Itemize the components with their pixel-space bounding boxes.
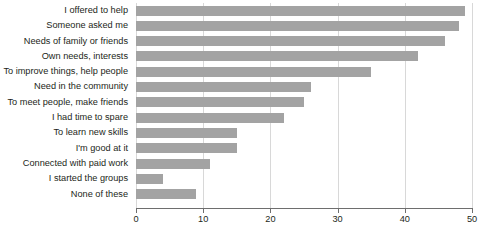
category-label: I had time to spare bbox=[0, 110, 132, 125]
bar bbox=[136, 128, 237, 138]
bar-row bbox=[136, 171, 472, 186]
plot-area bbox=[136, 3, 472, 208]
category-label: Own needs, interests bbox=[0, 49, 132, 64]
gridline bbox=[472, 3, 473, 208]
bar-row bbox=[136, 18, 472, 33]
tick-label: 20 bbox=[265, 214, 275, 224]
category-label: Connected with paid work bbox=[0, 156, 132, 171]
tick-mark bbox=[136, 209, 137, 213]
tick-mark bbox=[338, 209, 339, 213]
tick-label: 50 bbox=[467, 214, 477, 224]
bar-row bbox=[136, 125, 472, 140]
bar bbox=[136, 174, 163, 184]
bar-row bbox=[136, 95, 472, 110]
bar-row bbox=[136, 49, 472, 64]
category-label: To learn new skills bbox=[0, 125, 132, 140]
bar-row bbox=[136, 141, 472, 156]
x-axis-tick-labels: 01020304050 bbox=[136, 214, 473, 228]
bar-row bbox=[136, 79, 472, 94]
bar bbox=[136, 67, 371, 77]
bar-chart: I offered to helpSomeone asked meNeeds o… bbox=[0, 0, 480, 242]
category-label: To meet people, make friends bbox=[0, 95, 132, 110]
category-label: I'm good at it bbox=[0, 141, 132, 156]
category-label: I offered to help bbox=[0, 3, 132, 18]
tick-label: 30 bbox=[332, 214, 342, 224]
bar bbox=[136, 143, 237, 153]
bar-series bbox=[136, 3, 472, 208]
category-label: To improve things, help people bbox=[0, 64, 132, 79]
bar bbox=[136, 97, 304, 107]
bar-row bbox=[136, 110, 472, 125]
bar bbox=[136, 113, 284, 123]
category-label: I started the groups bbox=[0, 171, 132, 186]
category-label: Someone asked me bbox=[0, 18, 132, 33]
category-label: None of these bbox=[0, 187, 132, 202]
tick-mark bbox=[270, 209, 271, 213]
category-axis-labels: I offered to helpSomeone asked meNeeds o… bbox=[0, 3, 132, 208]
bar-row bbox=[136, 64, 472, 79]
category-label: Needs of family or friends bbox=[0, 34, 132, 49]
bar bbox=[136, 21, 459, 31]
bar bbox=[136, 6, 465, 16]
bar bbox=[136, 189, 196, 199]
tick-label: 40 bbox=[400, 214, 410, 224]
bar bbox=[136, 51, 418, 61]
tick-label: 10 bbox=[198, 214, 208, 224]
bar bbox=[136, 159, 210, 169]
bar bbox=[136, 82, 311, 92]
tick-mark bbox=[405, 209, 406, 213]
bar-row bbox=[136, 3, 472, 18]
tick-mark bbox=[203, 209, 204, 213]
bar-row bbox=[136, 187, 472, 202]
category-label: Need in the community bbox=[0, 79, 132, 94]
bar-row bbox=[136, 156, 472, 171]
tick-mark bbox=[472, 209, 473, 213]
bar bbox=[136, 36, 445, 46]
tick-label: 0 bbox=[133, 214, 138, 224]
bar-row bbox=[136, 34, 472, 49]
